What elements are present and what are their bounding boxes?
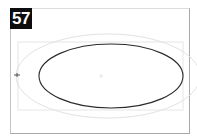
figure-number-badge: 57 <box>10 8 32 29</box>
main-ellipse[interactable] <box>39 44 183 108</box>
guide-ellipse <box>16 34 197 118</box>
left-anchor-marker[interactable] <box>14 73 20 77</box>
center-marker <box>99 74 103 78</box>
